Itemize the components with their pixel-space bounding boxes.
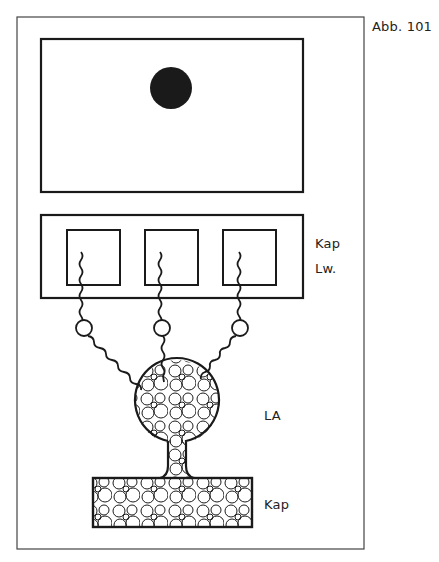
outer-frame <box>17 17 364 549</box>
label-kap-lw-line2: Lw. <box>315 262 336 275</box>
figure-label: Abb. 101 <box>372 20 432 33</box>
label-kap-lw-line1: Kap <box>315 237 340 250</box>
black-dot <box>150 67 192 109</box>
square-2 <box>145 230 198 285</box>
kap-bottom-box <box>93 478 252 527</box>
wavy-lines-upper <box>80 252 241 328</box>
square-1 <box>67 230 120 285</box>
square-3 <box>223 230 276 285</box>
la-bubble-body <box>135 358 219 478</box>
node-circle-3 <box>232 320 248 336</box>
label-la: LA <box>264 409 281 422</box>
diagram-canvas <box>0 0 439 562</box>
label-kap-bottom: Kap <box>264 498 289 511</box>
top-box <box>41 39 303 192</box>
node-circle-1 <box>76 320 92 336</box>
diagram-figure: Abb. 101 Kap Lw. LA Kap <box>0 0 439 562</box>
node-circle-2 <box>154 320 170 336</box>
